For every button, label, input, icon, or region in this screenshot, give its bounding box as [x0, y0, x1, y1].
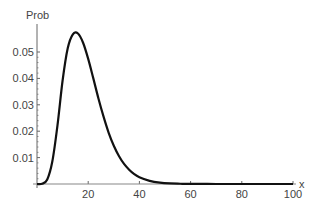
y-tick-label: 0.01: [13, 152, 34, 164]
y-tick-label: 0.05: [13, 46, 34, 58]
y-axis-label: Prob: [26, 9, 49, 21]
probability-chart: 0.010.020.030.040.05 20406080100 Prob x: [0, 0, 319, 210]
x-tick-label: 40: [133, 188, 145, 200]
probability-curve: [37, 32, 293, 184]
y-tick-label: 0.04: [13, 72, 34, 84]
x-axis-label: x: [299, 178, 305, 190]
y-tick-label: 0.03: [13, 99, 34, 111]
y-tick-label: 0.02: [13, 125, 34, 137]
y-axis-ticks: 0.010.020.030.040.05: [13, 46, 40, 179]
x-tick-label: 80: [236, 188, 248, 200]
x-tick-label: 60: [184, 188, 196, 200]
x-tick-label: 20: [82, 188, 94, 200]
